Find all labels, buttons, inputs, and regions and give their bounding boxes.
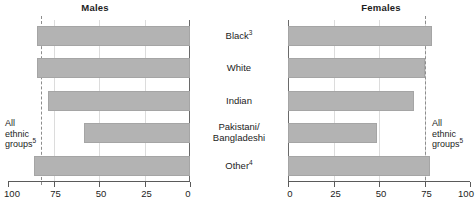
annotation-females-line3-wrap: groups5 [432, 139, 463, 150]
bar-row-males-indian [8, 85, 190, 117]
bar-females-white [288, 58, 425, 78]
panel-title-females: Females [288, 2, 474, 13]
tick-females-75 [425, 182, 426, 187]
ticklabel-males-50: 50 [96, 188, 107, 199]
annotation-females-line3: groups [432, 139, 460, 149]
tick-males-25 [145, 182, 146, 187]
figure-root: Males Females 100 75 50 25 0 [0, 0, 475, 208]
bar-females-other [288, 156, 430, 176]
category-label-black: Black3 [196, 30, 282, 41]
bar-row-females-black [288, 20, 470, 52]
annotation-females-line1: All [432, 118, 463, 129]
category-label-indian-text: Indian [226, 95, 252, 106]
plot-area-females [288, 20, 470, 182]
category-label-black-text: Black [226, 30, 249, 41]
tick-males-0 [190, 182, 191, 187]
category-label-indian: Indian [196, 95, 282, 106]
category-label-other-sup: 4 [249, 158, 253, 165]
bar-row-males-other [8, 150, 190, 182]
category-label-other-text: Other [225, 160, 249, 171]
annotation-males-line2: ethnic [5, 129, 36, 140]
ticklabel-females-25: 25 [330, 188, 341, 199]
tick-males-75 [54, 182, 55, 187]
tick-females-0 [288, 182, 289, 187]
plot-area-males [8, 20, 190, 182]
bar-males-pakistani-bangladeshi [84, 123, 190, 143]
tick-females-25 [334, 182, 335, 187]
annotation-females-sup: 5 [460, 137, 464, 144]
category-label-white-text: White [227, 62, 251, 73]
tick-males-100 [8, 182, 9, 187]
bar-row-males-white [8, 52, 190, 84]
category-label-column: Black3 White Indian Pakistani/ Banglades… [196, 20, 282, 182]
category-label-pakistani-bangladeshi: Pakistani/ Bangladeshi [196, 121, 282, 143]
bar-females-indian [288, 91, 414, 111]
ticklabel-females-0: 0 [287, 188, 292, 199]
ticklabel-females-75: 75 [421, 188, 432, 199]
bar-row-females-white [288, 52, 470, 84]
bar-row-females-other [288, 150, 470, 182]
bar-row-males-black [8, 20, 190, 52]
footnote-strip [6, 201, 306, 208]
tick-females-50 [379, 182, 380, 187]
bar-males-indian [48, 91, 190, 111]
ticklabel-males-75: 75 [50, 188, 61, 199]
ticklabel-males-100: 100 [4, 188, 20, 199]
panel-title-males: Males [0, 2, 190, 13]
ticklabel-males-0: 0 [185, 188, 190, 199]
bar-males-other [34, 156, 191, 176]
ticklabel-females-50: 50 [376, 188, 387, 199]
category-label-white: White [196, 62, 282, 73]
bar-row-females-indian [288, 85, 470, 117]
bar-females-black [288, 26, 432, 46]
annotation-males-sup: 5 [33, 137, 37, 144]
bar-males-black [37, 26, 190, 46]
annotation-males-line3: groups [5, 139, 33, 149]
annotation-males-line3-wrap: groups5 [5, 139, 36, 150]
tick-females-100 [470, 182, 471, 187]
bar-males-white [37, 58, 190, 78]
annotation-females-line2: ethnic [432, 129, 463, 140]
category-label-pakistani-line1: Pakistani/ [196, 121, 282, 132]
annotation-males-line1: All [5, 118, 36, 129]
category-label-other: Other4 [196, 160, 282, 171]
ticklabel-males-25: 25 [141, 188, 152, 199]
bar-females-pakistani-bangladeshi [288, 123, 377, 143]
tick-males-50 [99, 182, 100, 187]
annotation-males-all-ethnic-groups: All ethnic groups5 [5, 118, 36, 150]
category-label-black-sup: 3 [249, 29, 253, 36]
annotation-females-all-ethnic-groups: All ethnic groups5 [432, 118, 463, 150]
ticklabel-females-100: 100 [458, 188, 474, 199]
category-label-pakistani-line2: Bangladeshi [196, 132, 282, 143]
